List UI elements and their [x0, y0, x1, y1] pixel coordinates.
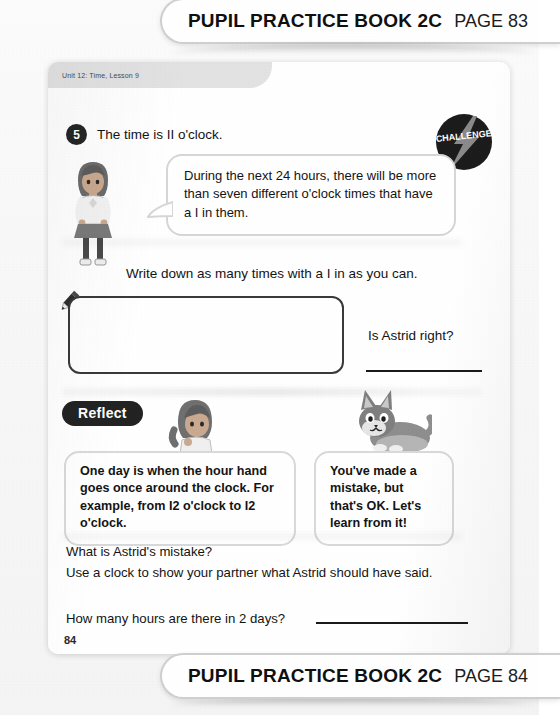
reflect-question-2: Use a clock to show your partner what As… — [66, 564, 466, 582]
top-banner-title: PUPIL PRACTICE BOOK 2C — [188, 10, 442, 32]
workbook-page: Unit 12: Time, Lesson 9 5 The time is II… — [48, 62, 510, 654]
bottom-banner-page-label: PAGE 84 — [454, 666, 528, 687]
reflect-question-1: What is Astrid's mistake? — [66, 543, 466, 561]
question-header: 5 The time is II o'clock. — [66, 124, 223, 145]
speech-bubble-tail — [147, 200, 173, 220]
unit-strip-label: Unit 12: Time, Lesson 9 — [62, 72, 139, 79]
reflect-label: Reflect — [62, 401, 143, 426]
girl-character-reflect — [164, 394, 226, 456]
page-number: 84 — [64, 634, 76, 646]
question-number-badge: 5 — [66, 124, 87, 145]
scan-artifact — [62, 240, 462, 245]
girl-character-standing — [68, 156, 118, 268]
cat-character — [350, 388, 432, 456]
unit-strip: Unit 12: Time, Lesson 9 — [48, 62, 272, 88]
is-astrid-right-prompt: Is Astrid right? — [368, 328, 454, 343]
question-stem: The time is II o'clock. — [97, 127, 223, 142]
reflect-bubble-right: You've made a mistake, but that's OK. Le… — [314, 451, 454, 546]
reflect-question-3: How many hours are there in 2 days? — [66, 610, 466, 628]
astrid-claim-text: During the next 24 hours, there will be … — [184, 168, 436, 220]
astrid-claim-bubble: During the next 24 hours, there will be … — [166, 154, 456, 236]
is-astrid-right-answer-line[interactable] — [366, 370, 482, 372]
answer-input-box[interactable] — [68, 296, 344, 374]
bottom-banner-title: PUPIL PRACTICE BOOK 2C — [188, 665, 442, 687]
top-page-banner: PUPIL PRACTICE BOOK 2C PAGE 83 — [160, 0, 560, 44]
top-banner-page-label: PAGE 83 — [454, 11, 528, 32]
page-content: 5 The time is II o'clock. CHALLENGE — [48, 88, 510, 654]
bottom-page-banner: PUPIL PRACTICE BOOK 2C PAGE 84 — [160, 653, 560, 699]
hours-answer-line[interactable] — [316, 622, 468, 624]
reflect-bubble-left: One day is when the hour hand goes once … — [64, 451, 296, 546]
write-instruction: Write down as many times with a I in as … — [126, 266, 418, 281]
